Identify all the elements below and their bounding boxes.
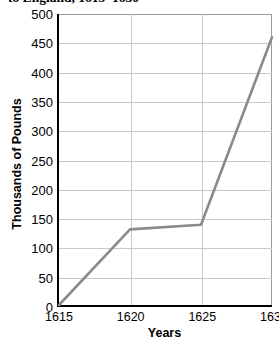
x-tick-label: 1615 [45,310,73,324]
plot-wrapper: 050100150200250300350400450500 161516201… [57,14,272,307]
y-tick-label: 250 [31,153,53,168]
x-tick-label: 1625 [188,310,216,324]
line-series [59,14,272,305]
x-axis-title: Years [57,326,272,340]
y-tick-label: 500 [31,7,53,22]
y-tick-label: 50 [39,270,53,285]
chart-title: to England, 1615–1630 [8,0,272,5]
y-tick-label: 350 [31,94,53,109]
x-tick-label: 1620 [117,310,145,324]
y-tick-label: 450 [31,36,53,51]
series-polyline [59,37,272,305]
y-axis-title: Thousands of Pounds [10,84,24,244]
y-tick-label: 100 [31,241,53,256]
x-tick-label: 1630 [260,310,279,324]
y-tick-label: 150 [31,212,53,227]
y-tick-label: 300 [31,124,53,139]
plot-area: 050100150200250300350400450500 161516201… [57,14,272,307]
y-tick-label: 200 [31,182,53,197]
y-tick-label: 400 [31,65,53,80]
